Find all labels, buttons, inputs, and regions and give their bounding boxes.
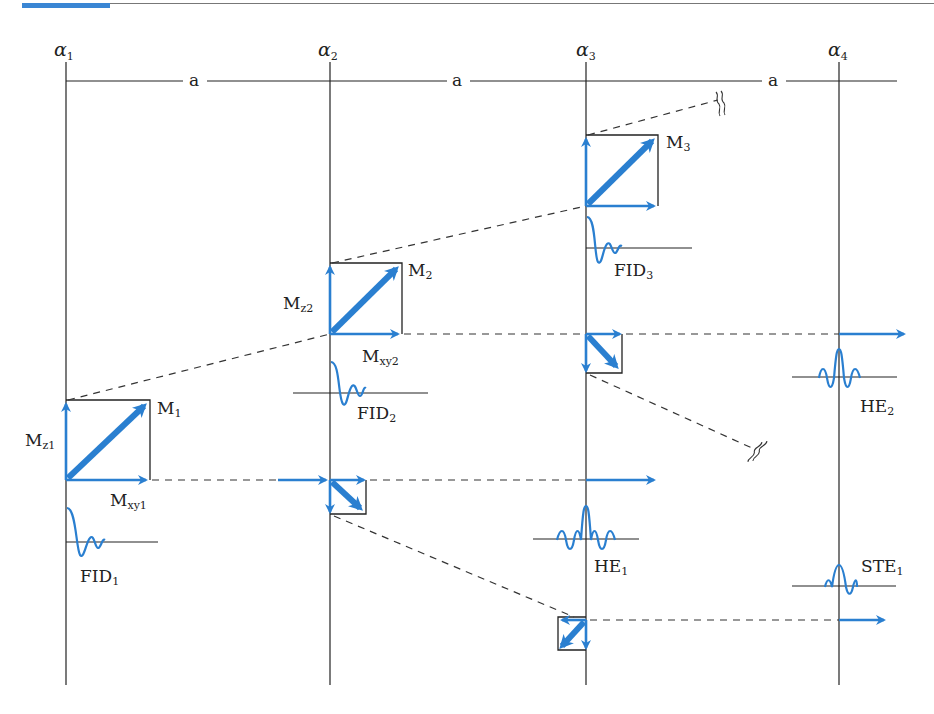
pulse-label-alpha3: α3 [576,38,596,63]
label-he1: HE1 [594,556,628,578]
vector-m1 [68,406,144,478]
waveform-fid3 [587,217,622,263]
vector-m2 [332,269,396,332]
label-fid1: FID1 [80,566,119,588]
waveform-fid2 [331,362,366,405]
label-m1: M1 [157,398,181,420]
label-mxy2: Mxy2 [362,346,399,368]
break-mark-icon [746,442,764,462]
waveform-ste1 [825,565,857,594]
label-he2: HE2 [860,396,894,418]
pulse-label-alpha1: α1 [54,38,74,63]
label-m2: M2 [408,260,432,282]
break-mark-icon [716,92,720,116]
interval-label: a [189,70,199,90]
pulse-sequence-diagram: α1 α2 α3 α4 a a a M1 Mz1 Mxy1 FID1 M2 Mz… [0,0,934,714]
phase-path [590,375,752,448]
label-ste1: STE1 [861,556,903,578]
label-fid2: FID2 [357,403,396,425]
label-mz1: Mz1 [25,430,55,452]
break-mark-icon [721,91,725,115]
label-m3: M3 [666,132,690,154]
phase-path [68,334,330,400]
label-mz2: Mz2 [283,293,313,315]
vector-m3 [588,141,652,204]
break-mark-icon [751,441,769,461]
waveform-fid1 [67,508,105,556]
interval-label: a [452,70,462,90]
interval-label: a [768,70,778,90]
phase-path [334,516,574,617]
pulse-label-alpha2: α2 [318,38,338,63]
vector-m-2b [332,482,360,508]
vector-m-3b [588,336,616,366]
vector-m-3c [562,622,584,646]
label-mxy1: Mxy1 [110,490,147,512]
pulse-label-alpha4: α4 [828,38,848,63]
label-fid3: FID3 [614,260,653,282]
phase-path [588,100,718,135]
phase-path [332,206,586,263]
